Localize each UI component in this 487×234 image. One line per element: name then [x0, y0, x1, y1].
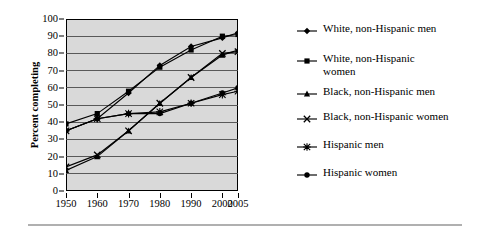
legend-marker-diamond-icon: [296, 23, 318, 35]
legend-item[interactable]: Black, non-Hispanic women: [296, 110, 449, 123]
y-tick-mark: [59, 139, 64, 140]
legend-marker-triangle-icon: [296, 86, 318, 98]
y-tick-mark: [59, 122, 64, 123]
legend-item[interactable]: Hispanic men: [296, 138, 384, 151]
y-tick-mark: [59, 173, 64, 174]
x-tick-label: 1980: [149, 198, 170, 209]
footer-divider: [28, 224, 462, 226]
legend-label: Black, non-Hispanic men: [323, 85, 435, 98]
legend-item[interactable]: White, non-Hispanic men: [296, 22, 436, 35]
x-tick-label: 1990: [181, 198, 202, 209]
plot-area: [66, 19, 238, 191]
chart-figure: Percent completing 010203040506070809010…: [0, 0, 487, 234]
y-tick-mark: [59, 105, 64, 106]
y-tick-label: 10: [48, 169, 59, 180]
y-tick-label: 40: [48, 117, 59, 128]
y-tick-mark: [59, 156, 64, 157]
legend-item[interactable]: White, non-Hispanic women: [296, 52, 415, 77]
y-tick-label: 20: [48, 151, 59, 162]
y-tick-mark: [59, 36, 64, 37]
y-tick-label: 80: [48, 48, 59, 59]
legend-label: White, non-Hispanic men: [323, 22, 436, 35]
legend-marker-circle-icon: [296, 167, 318, 179]
x-tick-label: 1970: [118, 198, 139, 209]
legend-marker-asterisk-icon: [296, 139, 318, 151]
y-tick-label: 30: [48, 134, 59, 145]
y-tick-label: 100: [42, 14, 58, 25]
legend-marker-square-icon: [296, 53, 318, 65]
y-tick-label: 50: [48, 100, 59, 111]
legend-label: White, non-Hispanic women: [323, 52, 415, 77]
data-series-layer: [66, 19, 238, 191]
y-tick-label: 90: [48, 31, 59, 42]
y-tick-mark: [59, 19, 64, 20]
legend-item[interactable]: Hispanic women: [296, 166, 397, 179]
legend-label: Hispanic women: [323, 166, 397, 179]
legend-label: Black, non-Hispanic women: [323, 110, 449, 123]
x-tick-label: 1950: [56, 198, 77, 209]
x-axis: 1950196019701980199020002005: [66, 193, 238, 215]
legend-marker-cross-icon: [296, 111, 318, 123]
x-tick-label: 1960: [87, 198, 108, 209]
y-tick-mark: [59, 53, 64, 54]
legend-item[interactable]: Black, non-Hispanic men: [296, 85, 435, 98]
y-tick-mark: [59, 70, 64, 71]
y-axis: 0102030405060708090100: [20, 12, 64, 198]
y-tick-label: 0: [53, 186, 58, 197]
y-tick-mark: [59, 191, 64, 192]
legend-label: Hispanic men: [323, 138, 384, 151]
y-tick-label: 70: [48, 65, 59, 76]
y-tick-mark: [59, 87, 64, 88]
y-tick-label: 60: [48, 83, 59, 94]
x-tick-label: 2005: [228, 198, 249, 209]
